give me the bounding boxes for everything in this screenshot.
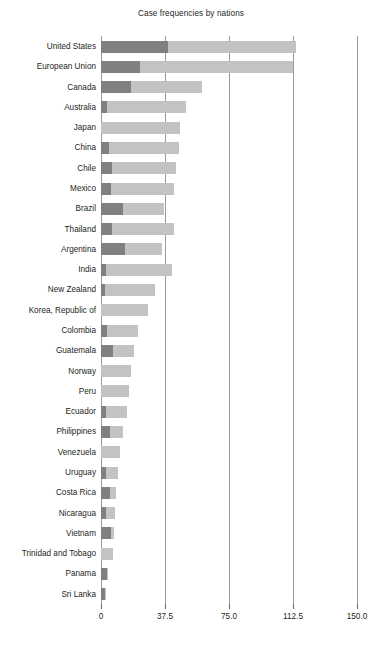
category-label: Thailand [0,219,96,240]
bar-row[interactable] [101,300,148,321]
bar-segment-light-segment[interactable] [101,548,113,560]
bar-row[interactable] [101,97,186,118]
bar-segment-light-segment[interactable] [101,122,180,134]
bar-segment-dark-segment[interactable] [101,203,123,215]
bar-segment-light-segment[interactable] [101,304,148,316]
bar-row[interactable] [101,259,172,280]
bar-row[interactable] [101,361,131,382]
category-label: Chile [0,158,96,179]
bar-row[interactable] [101,219,174,240]
bar-row[interactable] [101,462,118,483]
category-label: Vietnam [0,523,96,544]
bar-segment-light-segment[interactable] [101,365,131,377]
x-tick-mark [101,604,102,609]
bar-row[interactable] [101,523,114,544]
chart-title: Case frequencies by nations [0,9,382,18]
category-label: Peru [0,381,96,402]
bar-row[interactable] [101,340,134,361]
bar-segment-dark-segment[interactable] [101,243,125,255]
bar-segment-dark-segment[interactable] [101,527,111,539]
category-label: Guatemala [0,340,96,361]
gridline-150.0 [357,36,358,604]
category-label: Uruguay [0,462,96,483]
bar-segment-light-segment[interactable] [109,142,180,154]
bar-segment-light-segment[interactable] [123,203,164,215]
bar-row[interactable] [101,36,296,57]
bar-segment-light-segment[interactable] [106,467,118,479]
bar-row[interactable] [101,239,162,260]
bar-row[interactable] [101,421,123,442]
bar-row[interactable] [101,56,293,77]
bar-segment-light-segment[interactable] [105,284,154,296]
bar-row[interactable] [101,381,129,402]
bar-segment-light-segment[interactable] [107,325,138,337]
x-tick-mark [357,604,358,609]
bar-segment-light-segment[interactable] [110,487,116,499]
bar-segment-light-segment[interactable] [131,81,202,93]
bar-segment-light-segment[interactable] [101,446,120,458]
bar-segment-light-segment[interactable] [112,162,176,174]
bar-rows [101,36,357,604]
bar-segment-light-segment[interactable] [101,385,129,397]
bar-row[interactable] [101,117,180,138]
category-label: India [0,259,96,280]
bar-segment-dark-segment[interactable] [101,487,110,499]
bar-row[interactable] [101,158,176,179]
bar-segment-dark-segment[interactable] [101,426,110,438]
x-tick-label: 112.5 [283,612,303,621]
bar-segment-light-segment[interactable] [113,345,134,357]
bar-segment-light-segment[interactable] [105,588,106,600]
bar-row[interactable] [101,198,164,219]
category-label: Brazil [0,198,96,219]
bar-row[interactable] [101,563,108,584]
bar-segment-dark-segment[interactable] [101,41,168,53]
category-label: Colombia [0,320,96,341]
bar-segment-dark-segment[interactable] [101,345,113,357]
category-label: Costa Rica [0,482,96,503]
bar-segment-dark-segment[interactable] [101,142,109,154]
bar-segment-light-segment[interactable] [125,243,163,255]
bar-segment-light-segment[interactable] [106,507,115,519]
category-label: Panama [0,563,96,584]
bar-segment-light-segment[interactable] [112,223,173,235]
bar-row[interactable] [101,137,179,158]
bar-segment-dark-segment[interactable] [101,183,111,195]
bar-segment-light-segment[interactable] [107,568,108,580]
bar-row[interactable] [101,77,202,98]
bar-segment-light-segment[interactable] [111,527,114,539]
category-label: Venezuela [0,442,96,463]
bar-segment-light-segment[interactable] [107,101,186,113]
bar-row[interactable] [101,178,174,199]
plot-area [101,36,357,604]
category-label: Ecuador [0,401,96,422]
bar-segment-light-segment[interactable] [106,264,172,276]
bar-segment-dark-segment[interactable] [101,81,131,93]
bar-segment-dark-segment[interactable] [101,223,112,235]
bar-row[interactable] [101,482,116,503]
bar-row[interactable] [101,279,155,300]
x-tick-label: 37.5 [157,612,173,621]
bar-row[interactable] [101,503,115,524]
bar-row[interactable] [101,442,120,463]
category-label: Nicaragua [0,503,96,524]
category-label: European Union [0,56,96,77]
bar-segment-light-segment[interactable] [140,61,293,73]
bar-segment-dark-segment[interactable] [101,162,112,174]
bar-row[interactable] [101,543,113,564]
category-label: Japan [0,117,96,138]
bar-row[interactable] [101,401,127,422]
category-label: Sri Lanka [0,584,96,605]
category-label: Argentina [0,239,96,260]
bar-segment-light-segment[interactable] [111,183,174,195]
bar-segment-dark-segment[interactable] [101,61,140,73]
category-label: Korea, Republic of [0,300,96,321]
bar-segment-light-segment[interactable] [110,426,124,438]
x-tick-mark [293,604,294,609]
x-tick-mark [165,604,166,609]
bar-row[interactable] [101,584,106,605]
bar-segment-light-segment[interactable] [168,41,297,53]
category-label: China [0,137,96,158]
bar-segment-light-segment[interactable] [106,406,126,418]
x-tick-mark [229,604,230,609]
bar-row[interactable] [101,320,138,341]
